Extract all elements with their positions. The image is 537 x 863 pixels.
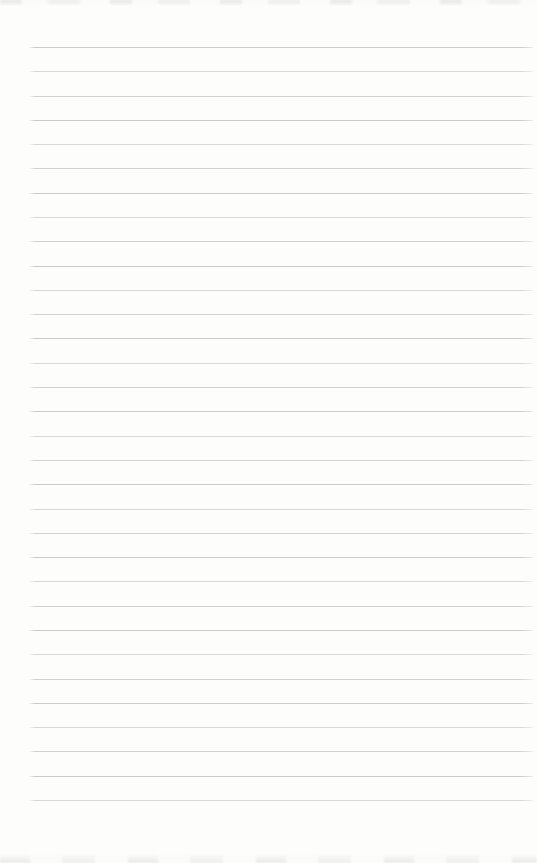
ruled-line xyxy=(28,314,533,315)
ruled-line xyxy=(28,509,533,510)
ruled-lines xyxy=(0,0,537,863)
ruled-line xyxy=(28,290,533,291)
ruled-line xyxy=(28,727,533,728)
ruled-line xyxy=(28,266,533,267)
ruled-line xyxy=(28,679,533,680)
ruled-line xyxy=(28,193,533,194)
ruled-line xyxy=(28,241,533,242)
ruled-line xyxy=(28,654,533,655)
ruled-line xyxy=(28,387,533,388)
ruled-line xyxy=(28,751,533,752)
ruled-line xyxy=(28,581,533,582)
ruled-line xyxy=(28,120,533,121)
ruled-line xyxy=(28,460,533,461)
ruled-line xyxy=(28,71,533,72)
notebook-page xyxy=(0,0,537,863)
ruled-line xyxy=(28,776,533,777)
ruled-line xyxy=(28,557,533,558)
ruled-line xyxy=(28,606,533,607)
ruled-line xyxy=(28,96,533,97)
ruled-line xyxy=(28,168,533,169)
ruled-line xyxy=(28,800,533,801)
ruled-line xyxy=(28,630,533,631)
ruled-line xyxy=(28,703,533,704)
ruled-line xyxy=(28,411,533,412)
ruled-line xyxy=(28,47,533,48)
ruled-line xyxy=(28,436,533,437)
ruled-line xyxy=(28,338,533,339)
ruled-line xyxy=(28,484,533,485)
ruled-line xyxy=(28,363,533,364)
ruled-line xyxy=(28,533,533,534)
ruled-line xyxy=(28,217,533,218)
ruled-line xyxy=(28,144,533,145)
